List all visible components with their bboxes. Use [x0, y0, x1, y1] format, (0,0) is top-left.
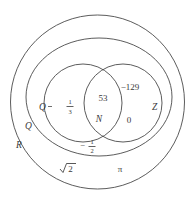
set-label-naturals: N: [95, 114, 103, 124]
element-sqrt-two: 2: [60, 164, 76, 175]
element-negative-one-half: − 1 2: [81, 138, 96, 154]
set-label-rationals: Q: [25, 121, 32, 131]
element-zero: 0: [127, 115, 132, 125]
set-label-rationals-inner: Q: [39, 102, 46, 112]
set-label-reals: R: [15, 140, 22, 150]
negative-one-half-sign: −: [81, 140, 86, 150]
one-third-numerator: 1: [68, 98, 71, 105]
euler-diagram: Q Q R N Z 1 3 53 −129 0 − 1 2: [0, 0, 195, 205]
element-pi: π: [118, 164, 123, 174]
negative-one-half-denominator: 2: [90, 147, 93, 154]
set-label-integers: Z: [152, 102, 158, 112]
element-fifty-three: 53: [99, 93, 109, 103]
venn-diagram-canvas: Q Q R N Z 1 3 53 −129 0 − 1 2: [0, 0, 195, 205]
set-curve-left-inner: [44, 64, 122, 142]
negative-one-half-numerator: 1: [90, 138, 93, 145]
element-one-third: 1 3: [67, 98, 74, 115]
set-curve-integers: [84, 64, 162, 142]
set-curve-reals: [11, 15, 185, 189]
element-negative-129: −129: [121, 82, 140, 92]
sqrt-two-radicand: 2: [68, 164, 73, 174]
one-third-denominator: 3: [68, 108, 71, 115]
